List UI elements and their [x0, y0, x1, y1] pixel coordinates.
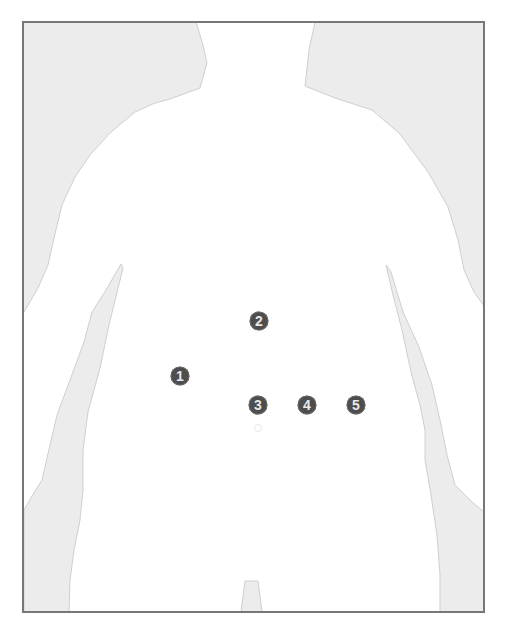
injection-site-3: 3	[249, 396, 268, 415]
injection-site-1: 1	[171, 367, 190, 386]
crotch-gap	[241, 581, 262, 612]
injection-site-5: 5	[347, 396, 366, 415]
injection-site-2: 2	[250, 312, 269, 331]
injection-site-4: 4	[298, 396, 317, 415]
navel-mark	[254, 424, 262, 432]
